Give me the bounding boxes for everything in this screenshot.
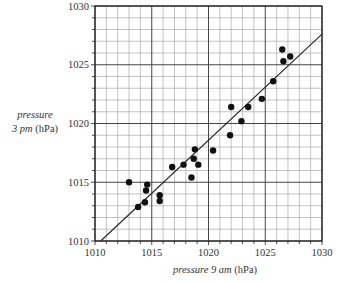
tick-labels: 1010101510201025103010101015102010251030 bbox=[68, 1, 333, 259]
x-axis-label-text: pressure 9 am bbox=[173, 264, 232, 275]
data-point bbox=[156, 198, 162, 204]
data-point bbox=[238, 118, 244, 124]
data-point bbox=[144, 181, 150, 187]
y-axis-label-unit: (hPa) bbox=[35, 123, 58, 134]
x-axis-label-unit: (hPa) bbox=[234, 264, 257, 275]
data-point bbox=[143, 187, 149, 193]
grid-lines bbox=[95, 6, 322, 241]
data-point bbox=[259, 96, 265, 102]
data-point bbox=[245, 104, 251, 110]
data-point bbox=[270, 78, 276, 84]
data-point bbox=[227, 132, 233, 138]
data-point bbox=[142, 199, 148, 205]
data-point bbox=[156, 192, 162, 198]
data-point bbox=[192, 146, 198, 152]
data-point bbox=[191, 156, 197, 162]
data-point bbox=[180, 161, 186, 167]
data-point bbox=[188, 174, 194, 180]
y-tick-label: 1010 bbox=[68, 236, 89, 247]
data-point bbox=[135, 204, 141, 210]
y-tick-label: 1025 bbox=[68, 59, 89, 70]
x-tick-label: 1015 bbox=[141, 247, 162, 258]
x-tick-label: 1020 bbox=[198, 247, 219, 258]
data-points bbox=[126, 46, 294, 210]
data-point bbox=[287, 53, 293, 59]
y-tick-label: 1030 bbox=[68, 1, 89, 12]
y-axis-label-time: 3 pm bbox=[12, 123, 33, 134]
axis-ticks bbox=[91, 6, 322, 245]
data-point bbox=[210, 147, 216, 153]
data-point bbox=[228, 104, 234, 110]
y-axis-label: pressure 3 pm (hPa) bbox=[4, 108, 66, 136]
y-tick-label: 1015 bbox=[68, 177, 89, 188]
data-point bbox=[126, 179, 132, 185]
x-tick-label: 1010 bbox=[85, 247, 106, 258]
data-point bbox=[169, 164, 175, 170]
x-tick-label: 1030 bbox=[312, 247, 333, 258]
scatter-chart: 1010101510201025103010101015102010251030 bbox=[0, 0, 344, 282]
data-point bbox=[279, 46, 285, 52]
y-tick-label: 1020 bbox=[68, 118, 89, 129]
data-point bbox=[280, 58, 286, 64]
x-axis-label: pressure 9 am (hPa) bbox=[150, 264, 280, 275]
data-point bbox=[195, 161, 201, 167]
y-axis-label-line1: pressure bbox=[17, 109, 52, 120]
x-tick-label: 1025 bbox=[255, 247, 276, 258]
